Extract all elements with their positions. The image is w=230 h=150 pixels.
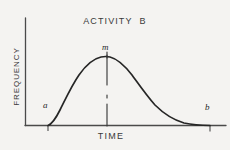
x-axis-label: TIME: [56, 131, 166, 141]
chart-screenshot: ACTIVITY B FREQUENCY TIME a m b: [0, 0, 230, 150]
annotation-label-b: b: [205, 102, 210, 112]
annotation-label-m: m: [102, 42, 109, 52]
frequency-curve: [48, 57, 210, 126]
chart-title: ACTIVITY B: [0, 16, 230, 26]
annotation-label-a: a: [43, 100, 48, 110]
y-axis-label: FREQUENCY: [12, 37, 21, 117]
